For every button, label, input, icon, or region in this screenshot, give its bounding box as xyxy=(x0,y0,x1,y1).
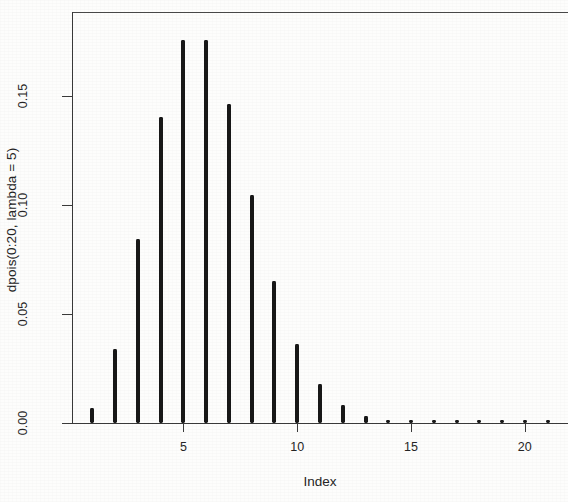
x-axis-line xyxy=(72,423,568,424)
x-axis-tick-mark xyxy=(297,423,298,432)
data-spike xyxy=(432,420,436,423)
data-spike xyxy=(295,344,299,423)
data-spike xyxy=(386,420,390,423)
data-spike xyxy=(341,405,345,423)
data-spike xyxy=(90,408,94,423)
x-axis-tick-mark xyxy=(411,423,412,432)
y-axis-line xyxy=(72,12,73,423)
data-spike xyxy=(500,420,504,423)
data-spike xyxy=(159,117,163,423)
y-axis-tick-mark xyxy=(62,96,72,97)
x-axis-title: Index xyxy=(72,474,568,489)
x-axis-tick-mark xyxy=(525,423,526,432)
plot-frame-top-border xyxy=(72,12,568,13)
y-axis-tick-mark xyxy=(62,423,72,424)
data-spike xyxy=(113,349,117,423)
y-axis-tick-mark xyxy=(62,314,72,315)
x-axis-tick-label: 15 xyxy=(391,440,431,454)
data-spike xyxy=(409,420,413,423)
x-axis-tick-label: 20 xyxy=(505,440,545,454)
x-axis-tick-mark xyxy=(183,423,184,432)
x-axis-tick-label: 10 xyxy=(277,440,317,454)
data-spike xyxy=(523,420,527,423)
data-spike xyxy=(136,239,140,423)
y-axis-tick-label: 0.05 xyxy=(16,291,30,337)
x-axis-tick-label: 5 xyxy=(163,440,203,454)
poisson-pmf-figure: dpois(0:20, lambda = 5) 0.000.050.100.15… xyxy=(0,0,568,502)
y-axis-tick-label: 0.15 xyxy=(16,73,30,119)
data-spike xyxy=(455,420,459,423)
data-spike xyxy=(546,420,550,423)
data-spike xyxy=(204,40,208,423)
data-spike xyxy=(477,420,481,423)
data-spike xyxy=(250,195,254,423)
data-spike xyxy=(181,40,185,423)
data-spike xyxy=(318,384,322,423)
y-axis-tick-label: 0.00 xyxy=(16,400,30,446)
data-spike xyxy=(272,281,276,423)
y-axis-tick-label: 0.10 xyxy=(16,182,30,228)
scan-grain-overlay xyxy=(0,0,568,502)
data-spike xyxy=(364,416,368,423)
y-axis-tick-mark xyxy=(62,205,72,206)
data-spike xyxy=(227,104,231,423)
